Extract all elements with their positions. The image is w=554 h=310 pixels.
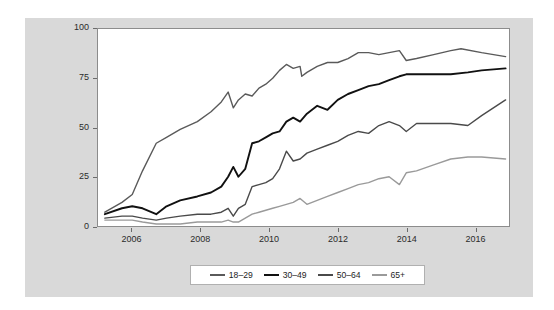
legend-swatch-icon (264, 274, 279, 277)
series-line-30-49 (105, 68, 506, 214)
x-tick-mark (338, 228, 339, 232)
legend-swatch-icon (210, 274, 225, 276)
x-tick-mark (131, 228, 132, 232)
legend-item-65+[interactable]: 65+ (372, 270, 406, 280)
x-tick-label: 2012 (318, 234, 358, 244)
legend-item-30–49[interactable]: 30–49 (264, 270, 307, 280)
x-tick-mark (269, 228, 270, 232)
legend-item-18–29[interactable]: 18–29 (210, 270, 253, 280)
y-tick-mark (93, 227, 97, 228)
y-tick-mark (93, 177, 97, 178)
plot-area (97, 28, 510, 227)
legend-swatch-icon (372, 274, 387, 276)
series-lines (98, 29, 509, 226)
legend-item-50–64[interactable]: 50–64 (318, 270, 361, 280)
series-line-65+ (105, 157, 506, 224)
x-tick-label: 2010 (249, 234, 289, 244)
x-tick-label: 2006 (111, 234, 151, 244)
legend-label: 50–64 (337, 270, 361, 280)
legend-label: 30–49 (283, 270, 307, 280)
x-tick-mark (476, 228, 477, 232)
x-tick-label: 2014 (387, 234, 427, 244)
y-tick-label: 75 (63, 72, 89, 82)
series-line-18-29 (105, 49, 506, 213)
y-tick-mark (93, 78, 97, 79)
x-tick-mark (200, 228, 201, 232)
chart-figure: % of U.S. Adults Who Use at Least One So… (0, 0, 554, 310)
legend-label: 18–29 (229, 270, 253, 280)
y-tick-mark (93, 128, 97, 129)
legend: 18–2930–4950–6465+ (190, 265, 425, 285)
x-tick-label: 2008 (180, 234, 220, 244)
figure-background: % of U.S. Adults Who Use at Least One So… (25, 18, 533, 297)
legend-label: 65+ (391, 270, 406, 280)
y-tick-label: 0 (63, 221, 89, 231)
y-tick-label: 25 (63, 171, 89, 181)
x-tick-label: 2016 (456, 234, 496, 244)
y-tick-label: 50 (63, 122, 89, 132)
legend-swatch-icon (318, 274, 333, 276)
x-tick-mark (407, 228, 408, 232)
y-tick-label: 100 (63, 22, 89, 32)
y-tick-mark (93, 28, 97, 29)
